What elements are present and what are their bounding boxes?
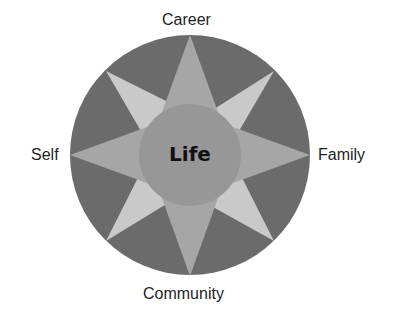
center-label-life: Life <box>169 144 211 164</box>
label-community: Community <box>143 286 224 302</box>
label-self: Self <box>31 147 59 163</box>
label-family: Family <box>318 147 365 163</box>
label-career: Career <box>162 12 211 28</box>
